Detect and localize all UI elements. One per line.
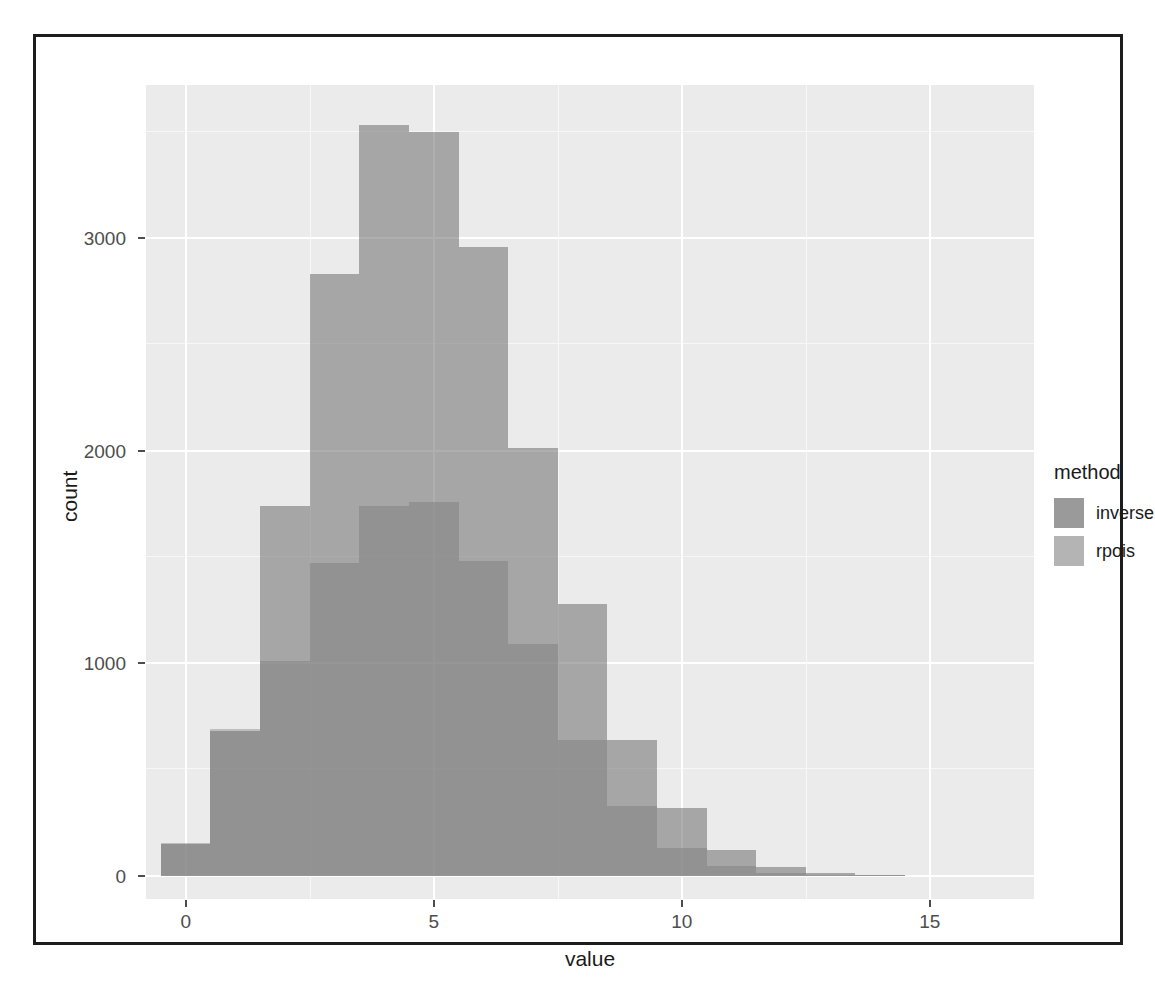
histogram-bar (260, 506, 310, 876)
legend-item[interactable]: inverse (1054, 496, 1155, 530)
x-axis-tick-label: 5 (394, 912, 474, 931)
legend-item-label: rpois (1096, 541, 1135, 562)
legend-title: method (1054, 461, 1155, 484)
x-axis-tick-mark (681, 900, 683, 907)
x-axis-tick-mark (185, 900, 187, 907)
histogram-bar (508, 448, 558, 875)
histogram-bar (657, 808, 707, 876)
histogram-bar (409, 132, 459, 876)
gridline-horizontal (146, 450, 1034, 452)
plot-panel (146, 85, 1034, 899)
x-axis-title: value (146, 947, 1034, 971)
gridline-vertical (929, 85, 931, 899)
histogram-bar (161, 844, 211, 876)
x-axis-tick-label: 10 (642, 912, 722, 931)
histogram-bar (756, 867, 806, 876)
histogram-bar (310, 274, 360, 875)
gridline-horizontal (146, 131, 1034, 132)
histogram-bar (359, 125, 409, 875)
histogram-bar (558, 604, 608, 876)
legend-items: inverserpois (1054, 496, 1155, 568)
gridline-vertical (185, 85, 187, 899)
x-axis-tick-label: 15 (890, 912, 970, 931)
x-axis-tick-mark (433, 900, 435, 907)
x-axis-tick-label: 0 (146, 912, 226, 931)
y-axis-tick-mark (138, 875, 145, 877)
y-axis-tick-mark (138, 450, 145, 452)
x-axis-tick-mark (929, 900, 931, 907)
gridline-vertical (806, 85, 807, 899)
legend-key-swatch (1054, 498, 1084, 528)
legend-key-swatch (1054, 536, 1084, 566)
histogram-bar (210, 731, 260, 876)
y-axis-tick-label: 2000 (84, 442, 126, 461)
y-axis-tick-label: 3000 (84, 229, 126, 248)
gridline-vertical (681, 85, 683, 899)
plot-frame: 0100020003000 count 051015 value method … (33, 34, 1123, 945)
legend: method inverserpois (1054, 461, 1155, 572)
gridline-horizontal (146, 237, 1034, 239)
gridline-horizontal (146, 343, 1034, 344)
y-axis-tick-mark (138, 237, 145, 239)
histogram-bar (607, 740, 657, 876)
y-axis-title: count (58, 471, 82, 522)
histogram-bar (806, 873, 856, 876)
legend-item-label: inverse (1096, 503, 1154, 524)
histogram-bar (707, 850, 757, 876)
legend-item[interactable]: rpois (1054, 534, 1155, 568)
y-axis-tick-mark (138, 662, 145, 664)
histogram-bar (459, 247, 509, 876)
y-axis-tick-label: 0 (115, 867, 126, 886)
histogram-bar (855, 875, 905, 876)
y-axis-tick-label: 1000 (84, 654, 126, 673)
